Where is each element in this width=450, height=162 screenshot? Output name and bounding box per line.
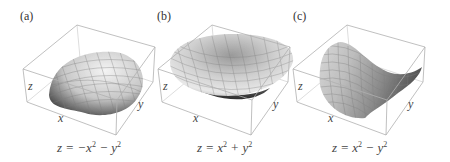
equation-b: z = x2 + y2 <box>197 140 252 156</box>
axis-label-y: y <box>408 97 413 112</box>
panel-a: (a) z x y z = −x2 − y2 <box>0 0 150 162</box>
axis-label-x: x <box>58 111 63 126</box>
panel-b: (b) z x y z = x2 + y2 <box>135 0 285 162</box>
equation-a: z = −x2 − y2 <box>57 140 121 156</box>
axis-label-x: x <box>193 111 198 126</box>
equation-c: z = x2 − y2 <box>332 140 387 156</box>
panel-c: (c) z x y z = x2 − y2 <box>270 0 420 162</box>
axis-label-z: z <box>298 79 303 94</box>
axis-label-z: z <box>28 79 33 94</box>
panel-label-c: (c) <box>293 9 306 24</box>
surface-c <box>320 42 422 118</box>
axis-label-x: x <box>328 111 333 126</box>
panel-label-a: (a) <box>20 9 33 24</box>
surface-plot-c <box>270 0 450 162</box>
panel-label-b: (b) <box>157 9 171 24</box>
axis-label-z: z <box>163 79 168 94</box>
